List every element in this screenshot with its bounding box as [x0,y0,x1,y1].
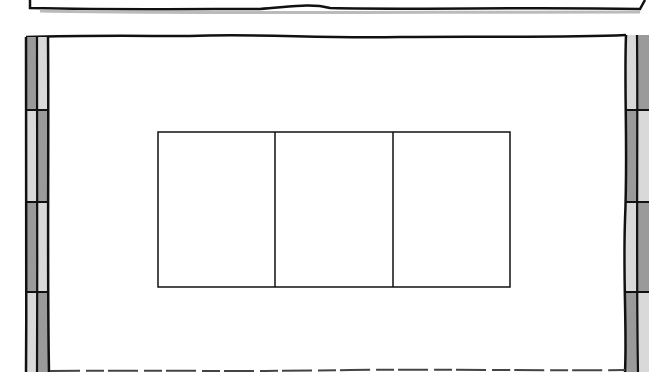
left-pillar [26,37,49,372]
scene-drawing [0,0,649,372]
right-pillar [624,35,649,372]
ceiling-line [26,35,626,37]
comic-panel-scene [0,0,649,372]
top-beam [30,0,645,13]
floor-line [50,370,625,371]
three-pane-window [158,132,510,287]
